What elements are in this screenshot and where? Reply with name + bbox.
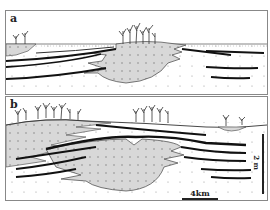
panel-label-b: b (10, 98, 18, 111)
panel-a: a (5, 10, 268, 95)
vertical-scale-label: 2 m (252, 155, 261, 170)
cross-section-a (6, 11, 267, 94)
panel-label-a: a (10, 12, 17, 25)
vertical-scale-line (262, 134, 264, 194)
cross-section-b (6, 97, 267, 200)
panel-b: b 4km 2 m (5, 96, 268, 201)
horizontal-scale-bar: 4km (182, 189, 218, 200)
horizontal-scale-label: 4km (182, 189, 218, 197)
vertical-scale-bar: 2 m (255, 134, 265, 194)
horizontal-scale-line (182, 198, 218, 200)
